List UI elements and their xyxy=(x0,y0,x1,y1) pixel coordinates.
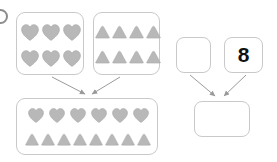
heart-icon xyxy=(28,108,44,123)
heart-icon xyxy=(42,24,60,41)
heart-icon xyxy=(21,24,39,41)
triangle-icon xyxy=(112,25,127,39)
addend-2-value: 8 xyxy=(225,38,262,72)
triangle-icon xyxy=(146,25,161,39)
triangle-icon xyxy=(41,133,55,146)
triangle-icon xyxy=(121,133,135,146)
triangle-icon xyxy=(129,50,144,64)
heart-icon xyxy=(133,108,149,123)
sum-answer-box[interactable] xyxy=(194,101,250,137)
triangle-icon xyxy=(89,133,103,146)
arrow-hearts-to-total xyxy=(52,77,85,94)
heart-icon xyxy=(91,108,107,123)
arrow-addend2-to-sum xyxy=(224,75,246,96)
triangle-icon xyxy=(137,133,151,146)
triangle-icon xyxy=(112,50,127,64)
triangle-icon xyxy=(146,50,161,64)
addend-2-box[interactable]: 8 xyxy=(224,37,263,73)
result-row-triangles xyxy=(17,129,159,149)
sum-value xyxy=(195,102,249,136)
hearts-group-box[interactable] xyxy=(16,12,84,75)
bullet-circle-icon xyxy=(0,9,8,24)
triangle-icon xyxy=(57,133,71,146)
triangles-row-bottom xyxy=(94,47,161,67)
result-row-hearts xyxy=(17,104,159,126)
triangles-row-top xyxy=(94,22,161,42)
arrow-triangles-to-total xyxy=(92,77,120,94)
worksheet-canvas: 8 xyxy=(0,0,277,162)
addend-1-box[interactable] xyxy=(176,37,211,73)
triangle-icon xyxy=(105,133,119,146)
triangle-icon xyxy=(73,133,87,146)
hearts-row-bottom xyxy=(17,47,85,69)
heart-icon xyxy=(49,108,65,123)
arrow-addend1-to-sum xyxy=(190,75,215,96)
heart-icon xyxy=(42,50,60,67)
addend-1-value xyxy=(177,38,210,72)
triangle-icon xyxy=(129,25,144,39)
heart-icon xyxy=(112,108,128,123)
triangle-icon xyxy=(95,25,110,39)
heart-icon xyxy=(63,24,81,41)
hearts-row-top xyxy=(17,21,85,43)
heart-icon xyxy=(63,50,81,67)
heart-icon xyxy=(70,108,86,123)
triangles-group-box[interactable] xyxy=(93,12,160,75)
heart-icon xyxy=(21,50,39,67)
triangle-icon xyxy=(95,50,110,64)
triangle-icon xyxy=(25,133,39,146)
result-group-box[interactable] xyxy=(16,98,158,155)
